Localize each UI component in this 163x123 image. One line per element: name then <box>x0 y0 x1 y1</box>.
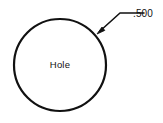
dimension-value-label: .500 <box>133 8 153 19</box>
hole-label: Hole <box>50 59 70 70</box>
technical-drawing-canvas: Hole .500 <box>0 0 163 123</box>
drawing-svg: Hole .500 <box>0 0 163 123</box>
